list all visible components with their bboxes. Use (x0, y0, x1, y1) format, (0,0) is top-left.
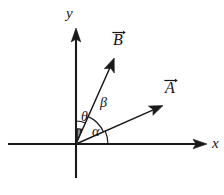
vector-a-label-text: A (165, 79, 175, 96)
diagram-canvas (0, 0, 224, 195)
angle-label-beta: β (100, 96, 107, 110)
x-axis-label: x (212, 136, 219, 151)
y-axis (71, 28, 81, 178)
vector-b-label: B (113, 30, 123, 48)
vector-angle-diagram: x y B A α β θ (0, 0, 224, 195)
vector-b-label-text: B (113, 31, 123, 48)
angle-arc-alpha (105, 131, 108, 144)
angle-label-theta: θ (81, 110, 88, 124)
vector-a (76, 106, 163, 144)
y-axis-label: y (66, 6, 73, 21)
vector-a-label: A (165, 78, 175, 96)
angle-label-alpha: α (92, 125, 99, 139)
